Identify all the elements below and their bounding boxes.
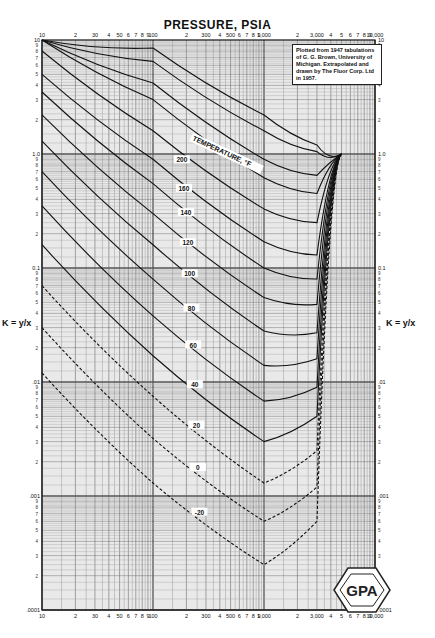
svg-text:7: 7: [245, 613, 248, 619]
svg-text:2: 2: [74, 613, 77, 619]
svg-text:9: 9: [35, 271, 38, 276]
svg-text:6: 6: [238, 613, 241, 619]
svg-text:8: 8: [363, 613, 366, 619]
svg-text:2: 2: [35, 118, 38, 123]
svg-text:8: 8: [35, 391, 38, 396]
svg-text:7: 7: [378, 398, 381, 403]
svg-text:100: 100: [148, 32, 157, 38]
svg-text:7: 7: [245, 32, 248, 38]
svg-text:10: 10: [34, 37, 40, 43]
svg-text:3: 3: [378, 326, 381, 331]
svg-text:80: 80: [188, 305, 196, 312]
svg-text:8: 8: [363, 32, 366, 38]
svg-text:8: 8: [35, 277, 38, 282]
svg-text:6: 6: [127, 613, 130, 619]
svg-text:4: 4: [218, 32, 221, 38]
svg-text:140: 140: [181, 209, 192, 216]
svg-text:4: 4: [329, 613, 332, 619]
svg-text:6: 6: [349, 32, 352, 38]
svg-text:6: 6: [238, 32, 241, 38]
svg-text:2: 2: [378, 118, 381, 123]
svg-text:3,000: 3,000: [310, 613, 324, 619]
svg-text:5: 5: [378, 300, 381, 305]
svg-text:2: 2: [185, 32, 188, 38]
svg-text:6: 6: [35, 291, 38, 296]
svg-text:6: 6: [378, 519, 381, 524]
svg-text:5: 5: [340, 32, 343, 38]
svg-text:9: 9: [378, 271, 381, 276]
svg-text:8: 8: [252, 32, 255, 38]
svg-text:5: 5: [340, 613, 343, 619]
svg-text:.01: .01: [32, 379, 40, 385]
svg-text:-20: -20: [195, 509, 205, 516]
svg-text:0.1: 0.1: [32, 265, 40, 271]
y-axis-label-right: K = y/x: [386, 318, 415, 328]
svg-text:6: 6: [349, 613, 352, 619]
svg-text:3: 3: [378, 98, 381, 103]
svg-text:6: 6: [378, 291, 381, 296]
svg-text:3: 3: [378, 212, 381, 217]
svg-text:160: 160: [179, 185, 190, 192]
svg-text:9: 9: [378, 499, 381, 504]
svg-text:5: 5: [35, 414, 38, 419]
svg-text:7: 7: [35, 284, 38, 289]
svg-text:5: 5: [378, 186, 381, 191]
svg-text:7: 7: [378, 512, 381, 517]
svg-text:3,000: 3,000: [310, 32, 324, 38]
svg-text:10: 10: [39, 613, 45, 619]
svg-text:200: 200: [176, 156, 187, 163]
svg-text:10,000: 10,000: [367, 613, 384, 619]
svg-text:100: 100: [148, 613, 157, 619]
svg-text:7: 7: [35, 398, 38, 403]
svg-text:6: 6: [35, 405, 38, 410]
svg-text:8: 8: [141, 32, 144, 38]
svg-text:100: 100: [184, 270, 195, 277]
svg-text:GPA: GPA: [346, 582, 378, 599]
svg-text:4: 4: [378, 539, 381, 544]
svg-text:8: 8: [141, 613, 144, 619]
svg-text:3: 3: [378, 440, 381, 445]
k-value-chart: 200160140120100806040200-20TEMPERATURE, …: [0, 0, 435, 638]
svg-text:8: 8: [378, 163, 381, 168]
svg-text:4: 4: [329, 32, 332, 38]
svg-text:.001: .001: [378, 493, 389, 499]
svg-text:6: 6: [35, 177, 38, 182]
svg-text:5: 5: [35, 300, 38, 305]
y-axis-label-left: K = y/x: [2, 318, 31, 328]
svg-text:2: 2: [296, 32, 299, 38]
svg-text:9: 9: [378, 157, 381, 162]
svg-text:4: 4: [218, 613, 221, 619]
svg-text:2: 2: [35, 460, 38, 465]
svg-text:2: 2: [74, 32, 77, 38]
svg-text:6: 6: [378, 177, 381, 182]
svg-text:40: 40: [191, 381, 199, 388]
svg-text:3: 3: [378, 554, 381, 559]
svg-text:3: 3: [35, 326, 38, 331]
svg-text:0: 0: [196, 464, 200, 471]
svg-text:8: 8: [378, 277, 381, 282]
svg-text:7: 7: [35, 56, 38, 61]
svg-text:8: 8: [378, 505, 381, 510]
svg-text:5: 5: [378, 414, 381, 419]
svg-text:9: 9: [35, 385, 38, 390]
svg-text:7: 7: [378, 284, 381, 289]
svg-text:1,000: 1,000: [257, 613, 271, 619]
svg-text:8: 8: [378, 391, 381, 396]
svg-text:300: 300: [201, 613, 210, 619]
svg-text:1.0: 1.0: [32, 151, 40, 157]
svg-text:.0001: .0001: [26, 607, 40, 613]
svg-text:7: 7: [134, 613, 137, 619]
svg-text:50: 50: [117, 32, 123, 38]
svg-text:7: 7: [356, 613, 359, 619]
svg-text:9: 9: [378, 385, 381, 390]
svg-text:.001: .001: [29, 493, 40, 499]
svg-text:3: 3: [35, 212, 38, 217]
svg-text:4: 4: [35, 311, 38, 316]
svg-text:9: 9: [35, 43, 38, 48]
svg-text:4: 4: [378, 425, 381, 430]
svg-text:6: 6: [378, 405, 381, 410]
svg-text:4: 4: [35, 425, 38, 430]
svg-text:3: 3: [35, 440, 38, 445]
svg-text:4: 4: [35, 539, 38, 544]
svg-text:10: 10: [378, 37, 384, 43]
